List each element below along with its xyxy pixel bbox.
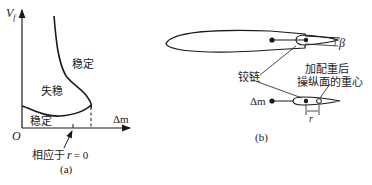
beta-label: β (339, 37, 345, 49)
caption-a: (a) (60, 164, 72, 175)
y-axis-label: Vf (6, 7, 16, 22)
x-axis-label: Δm (113, 114, 129, 125)
lower-mass-dot (269, 98, 274, 103)
r-zero-annotation: 相应于r= 0 (32, 149, 88, 161)
offset-r-label: r (309, 114, 313, 124)
cg-label-line1: 加配重后 (305, 64, 349, 75)
cg-label-line2: 操纵面的重心 (297, 77, 363, 88)
region-stable-lower: 稳定 (30, 116, 52, 127)
new-cg-circle (317, 99, 322, 104)
mass-label: Δm (250, 96, 266, 107)
balance-mass-dot (269, 37, 274, 42)
hinge-label: 铰链 (238, 72, 260, 83)
wing-airfoil (166, 30, 305, 52)
hinge-dot (304, 38, 308, 42)
region-unstable: 失稳 (41, 86, 63, 97)
origin-label: O (12, 130, 21, 142)
lower-hinge-dot (304, 99, 308, 103)
caption-b: (b) (255, 132, 268, 143)
r-zero-leader-arrow (64, 131, 72, 148)
region-stable-upper: 稳定 (72, 59, 94, 70)
figure: Vf Δm O 稳定 失稳 稳定 相应于r= 0 (a) β 铰链 加配重后 操… (0, 0, 372, 185)
